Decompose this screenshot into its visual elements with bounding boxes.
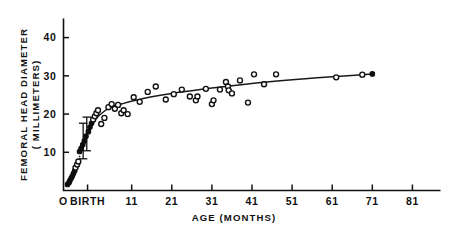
data-point-open [116,102,121,107]
x-tick-label: 81 [406,195,419,207]
x-tick-label: 51 [286,195,299,207]
femoral-head-diameter-figure: 10203040OBIRTH1121314151617181AGE (MONTH… [0,0,466,233]
data-point-filled [86,129,91,134]
data-point-open [95,108,100,113]
data-point-filled [84,134,89,139]
x-tick-label: 21 [165,195,178,207]
data-point-open [211,98,216,103]
data-point-open [102,115,107,120]
x-tick-label: 71 [366,195,379,207]
data-point-filled [82,139,87,144]
data-point-open [245,100,250,105]
data-point-open [229,91,234,96]
data-point-open [179,87,184,92]
data-point-open [360,72,365,77]
data-point-open [187,94,192,99]
x-tick-label: 61 [326,195,339,207]
x-tick-label: 41 [246,195,259,207]
data-point-open [334,75,339,80]
y-tick-label: 30 [44,70,57,82]
data-point-open [252,72,257,77]
data-point-open [274,72,279,77]
y-tick-label: 10 [44,146,57,158]
data-point-filled [370,72,375,77]
data-point-open [163,97,168,102]
x-axis-title-text: AGE (MONTHS) [192,212,277,223]
x-tick-label: 31 [205,195,218,207]
x-tick-label: O [59,195,68,207]
y-tick-label: 20 [44,108,57,120]
data-point-open [195,94,200,99]
data-point-open [131,95,136,100]
data-point-open [99,121,104,126]
y-axis-title-line2: ( MILLIMETERS) [30,60,41,149]
y-axis-title-line1: FEMORAL HEAD DIAMETER [18,28,29,181]
data-point-open [145,89,150,94]
data-point-open [171,92,176,97]
x-tick-label: 11 [126,195,138,207]
x-tick-label: BIRTH [70,195,105,207]
growth-fit-curve [89,74,372,131]
data-point-open [153,84,158,89]
data-point-open [137,99,142,104]
scatter-plot: 10203040OBIRTH1121314151617181AGE (MONTH… [0,0,466,233]
data-point-open [237,78,242,83]
data-point-open [203,86,208,91]
data-point-open [217,87,222,92]
y-tick-label: 40 [44,31,57,43]
data-point-open [262,82,267,87]
data-point-open [109,102,114,107]
data-point-open [76,159,81,164]
data-point-open [125,112,130,117]
